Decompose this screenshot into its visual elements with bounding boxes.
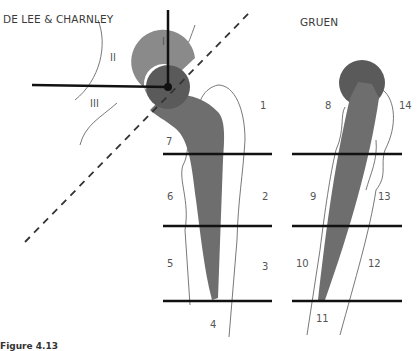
zone-11: 11 bbox=[316, 313, 329, 324]
zone-3: 3 bbox=[262, 261, 268, 272]
zone-14: 14 bbox=[399, 100, 412, 111]
zone-9: 9 bbox=[310, 191, 316, 202]
zone-5: 5 bbox=[167, 258, 173, 269]
zone-2: 2 bbox=[262, 191, 268, 202]
zone-4: 4 bbox=[210, 319, 216, 330]
zone-II: II bbox=[110, 52, 116, 63]
zone-13: 13 bbox=[378, 191, 391, 202]
pelvis-outline-lower bbox=[80, 103, 117, 145]
zone-III: III bbox=[90, 98, 99, 109]
zone-12: 12 bbox=[368, 258, 381, 269]
zone-6: 6 bbox=[167, 191, 173, 202]
zone-7: 7 bbox=[166, 136, 172, 147]
center-point bbox=[164, 83, 172, 91]
gruen-title: GRUEN bbox=[300, 16, 338, 28]
figure-caption: Figure 4.13 bbox=[0, 341, 58, 351]
pelvis-outline-upper bbox=[75, 20, 102, 100]
zone-8: 8 bbox=[325, 100, 331, 111]
zone-1: 1 bbox=[260, 100, 266, 111]
femoral-stem-left bbox=[150, 94, 224, 300]
de-lee-charnley-title: DE LEE & CHARNLEY bbox=[3, 13, 113, 25]
zone-I: I bbox=[162, 36, 165, 47]
zone-10: 10 bbox=[296, 258, 309, 269]
